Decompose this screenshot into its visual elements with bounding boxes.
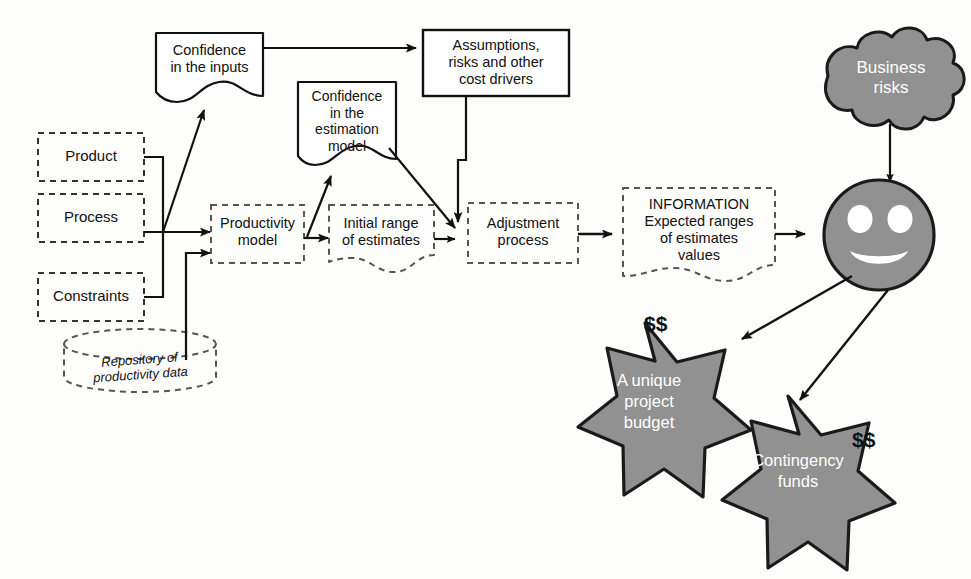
initial-range-of-estimates-document xyxy=(329,205,434,272)
diagram-canvas: Product Process Constraints Repository o… xyxy=(0,0,971,579)
estimation-process-svg xyxy=(0,0,971,579)
input-process-box xyxy=(38,194,144,242)
confidence-in-inputs-document xyxy=(156,33,263,102)
budget-star-money-label: $$ xyxy=(644,312,667,336)
business-risks-cloud xyxy=(826,28,965,129)
estimator-smiley-face xyxy=(824,180,934,290)
information-expected-ranges-document xyxy=(623,188,775,281)
smiley-right-eye xyxy=(888,205,913,233)
adjustment-process-box xyxy=(468,203,578,263)
input-constraints-box xyxy=(38,273,144,321)
input-product-box xyxy=(38,133,144,181)
productivity-model-box xyxy=(211,205,304,263)
assumptions-box xyxy=(423,30,569,96)
contingency-star-money-label: $$ xyxy=(852,428,875,452)
a-unique-project-budget-star xyxy=(578,323,751,497)
confidence-in-estimation-model-document xyxy=(298,82,396,165)
contingency-funds-star xyxy=(722,396,895,570)
repository-cylinder xyxy=(64,329,216,392)
smiley-left-eye xyxy=(848,205,873,233)
